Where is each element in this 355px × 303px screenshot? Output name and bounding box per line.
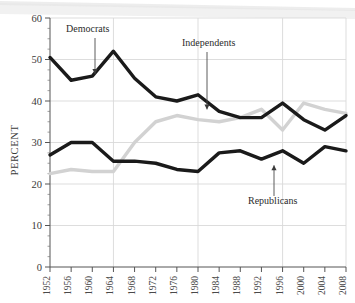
y-axis-tick-label: 10 [32, 220, 43, 231]
chart-canvas: 0102030405060 19521956196019641968197219… [0, 0, 355, 303]
y-axis-tick-label: 20 [32, 179, 43, 190]
x-axis-tick-labels: 1952195619601964196819721976198019841988… [42, 276, 348, 295]
y-axis-tick-label: 30 [32, 137, 43, 148]
y-axis-tick-label: 0 [37, 262, 42, 273]
x-axis-ticks [50, 267, 346, 272]
x-axis-tick-label: 1952 [42, 276, 52, 295]
scan-artifact-band [0, 1, 355, 19]
x-axis-tick-label: 1984 [211, 276, 221, 295]
y-axis-tick-label: 60 [32, 13, 43, 24]
annotation-label-independents: Independents [182, 37, 235, 48]
x-axis-tick-label: 1956 [63, 276, 73, 295]
x-axis-tick-label: 2004 [317, 276, 327, 295]
x-axis-tick-label: 2008 [338, 276, 348, 295]
party-identification-line-chart: 0102030405060 19521956196019641968197219… [0, 0, 355, 303]
y-axis-tick-labels: 0102030405060 [32, 13, 43, 273]
x-axis-tick-label: 1964 [105, 276, 115, 295]
x-axis-tick-label: 1976 [169, 276, 179, 295]
x-axis-tick-label: 1988 [232, 276, 242, 295]
y-axis-tick-label: 50 [32, 54, 43, 65]
y-axis-ticks [45, 18, 50, 267]
x-axis-tick-label: 2000 [296, 276, 306, 295]
annotation-label-democrats: Democrats [66, 23, 109, 34]
x-axis-tick-label: 1980 [190, 276, 200, 295]
annotation-label-republicans: Republicans [248, 195, 298, 206]
x-axis-tick-label: 1972 [148, 276, 158, 295]
x-axis-tick-label: 1996 [275, 276, 285, 295]
y-axis-tick-label: 40 [32, 96, 43, 107]
y-axis-title: PERCENT [9, 125, 20, 176]
x-axis-tick-label: 1992 [253, 276, 263, 295]
x-axis-tick-label: 1960 [84, 276, 94, 295]
x-axis-tick-label: 1968 [127, 276, 137, 295]
